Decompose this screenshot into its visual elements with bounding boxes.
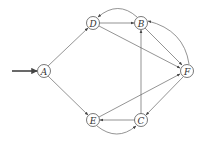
node-F: F (181, 65, 194, 78)
edge-A-E (48, 76, 88, 115)
svg-text:A: A (40, 67, 48, 77)
edge-E-F (99, 74, 180, 117)
svg-text:F: F (183, 67, 191, 77)
node-A: A (38, 65, 51, 78)
edge-A-D (48, 28, 88, 66)
state-diagram: A D B F E C (0, 0, 205, 143)
svg-text:D: D (88, 19, 96, 29)
node-B: B (135, 17, 148, 30)
node-C: C (135, 114, 148, 127)
node-D: D (87, 17, 100, 30)
svg-text:B: B (137, 19, 145, 29)
node-E: E (87, 114, 100, 127)
svg-text:C: C (138, 116, 145, 126)
edge-F-B (148, 21, 189, 64)
edge-F-C (146, 77, 183, 115)
edge-B-D (98, 9, 137, 18)
edge-E-C (97, 126, 136, 134)
edge-D-F (99, 26, 180, 68)
svg-text:E: E (89, 116, 97, 126)
